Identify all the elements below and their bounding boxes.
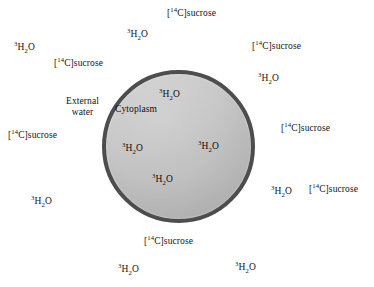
sucrose-isotope-superscript: 14 (57, 56, 64, 63)
water-subscript: 2 (137, 34, 140, 41)
c14-sucrose-label: [14C]sucrose (144, 236, 193, 247)
water-isotope-superscript: 3 (122, 141, 125, 148)
sucrose-isotope-superscript: 14 (255, 39, 262, 46)
tritiated-water-label: 3H2O (198, 141, 219, 152)
water-isotope-superscript: 3 (235, 260, 238, 267)
water-subscript: 2 (268, 78, 271, 85)
tritiated-water-label: 3H2O (152, 174, 173, 185)
c14-sucrose-label: [14C]sucrose (252, 41, 301, 52)
tritiated-water-label: 3H2O (159, 89, 180, 100)
water-subscript: 2 (281, 191, 284, 198)
water-subscript: 2 (41, 201, 44, 208)
water-isotope-superscript: 3 (271, 184, 274, 191)
tritiated-water-label: 3H2O (31, 196, 52, 207)
water-subscript: 2 (132, 148, 135, 155)
sucrose-isotope-superscript: 14 (147, 234, 154, 241)
tritiated-water-label: 3H2O (14, 42, 35, 53)
cell-diagram-figure: [14C]sucrose3H2O[14C]sucrose3H2O[14C]suc… (0, 0, 374, 287)
external-water-line1: External (66, 96, 99, 106)
water-isotope-superscript: 3 (159, 87, 162, 94)
water-subscript: 2 (208, 146, 211, 153)
water-subscript: 2 (169, 94, 172, 101)
c14-sucrose-label: [14C]sucrose (281, 123, 330, 134)
water-isotope-superscript: 3 (118, 262, 121, 269)
c14-sucrose-label: [14C]sucrose (167, 8, 216, 19)
c14-sucrose-label: [14C]sucrose (54, 58, 103, 69)
water-isotope-superscript: 3 (127, 27, 130, 34)
tritiated-water-label: 3H2O (258, 73, 279, 84)
water-isotope-superscript: 3 (258, 71, 261, 78)
external-water-line2: water (72, 107, 94, 117)
c14-sucrose-label: [14C]sucrose (309, 184, 358, 195)
tritiated-water-label: 3H2O (271, 186, 292, 197)
tritiated-water-label: 3H2O (122, 143, 143, 154)
tritiated-water-label: 3H2O (118, 264, 139, 275)
sucrose-isotope-superscript: 14 (170, 6, 177, 13)
sucrose-isotope-superscript: 14 (11, 128, 18, 135)
c14-sucrose-label: [14C]sucrose (8, 130, 57, 141)
tritiated-water-label: 3H2O (127, 29, 148, 40)
water-subscript: 2 (245, 267, 248, 274)
cytoplasm-label: Cytoplasm (115, 104, 157, 115)
sucrose-isotope-superscript: 14 (284, 121, 291, 128)
water-isotope-superscript: 3 (14, 40, 17, 47)
tritiated-water-label: 3H2O (235, 262, 256, 273)
water-subscript: 2 (162, 179, 165, 186)
water-subscript: 2 (128, 269, 131, 276)
water-subscript: 2 (24, 47, 27, 54)
water-isotope-superscript: 3 (198, 139, 201, 146)
sucrose-isotope-superscript: 14 (312, 182, 319, 189)
water-isotope-superscript: 3 (152, 172, 155, 179)
water-isotope-superscript: 3 (31, 194, 34, 201)
external-water-label: Externalwater (66, 96, 99, 117)
